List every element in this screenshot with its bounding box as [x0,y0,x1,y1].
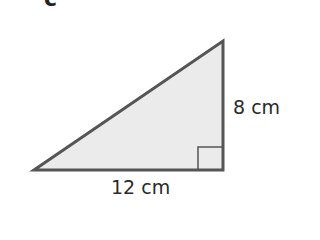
base-dimension-label: 12 cm [111,178,170,197]
triangle [34,41,223,170]
height-dimension-label: 8 cm [233,98,280,117]
